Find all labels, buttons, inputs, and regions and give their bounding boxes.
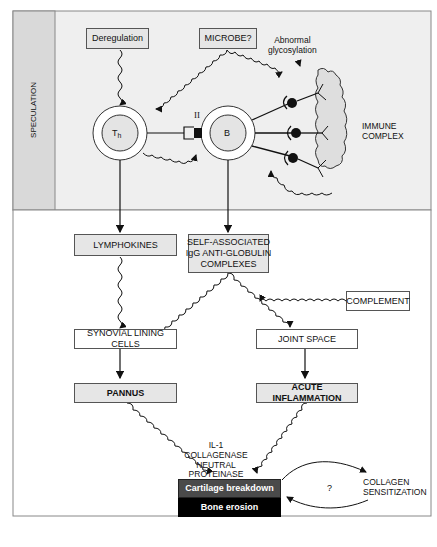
th-cell-label: Th	[112, 128, 121, 140]
cartilage-breakdown-box: Cartilage breakdown	[178, 479, 281, 498]
pannus-box: PANNUS	[74, 383, 177, 403]
th-subscript: h	[118, 132, 122, 139]
deregulation-box: Deregulation	[86, 28, 149, 49]
acute-inflammation-box: ACUTE INFLAMMATION	[256, 383, 358, 403]
bone-erosion-box: Bone erosion	[178, 498, 281, 517]
question-mark: ?	[327, 483, 332, 493]
complement-box: COMPLEMENT	[346, 291, 410, 311]
collagen-sensitization-label: COLLAGEN SENSITIZATION	[363, 478, 427, 498]
mediators-label: IL-1 COLLAGENASE NEUTRAL PROTEINASE	[181, 441, 251, 480]
speculation-label: SPECULATION	[29, 82, 38, 138]
self-associated-box: SELF-ASSOCIATED IgG ANTI-GLOBULIN COMPLE…	[188, 234, 269, 273]
mhc-class-ii-label: II	[194, 110, 200, 120]
lymphokines-box: LYMPHOKINES	[74, 234, 177, 256]
immune-complex-label: IMMUNE COMPLEX	[362, 122, 404, 142]
b-cell-label: B	[224, 128, 230, 138]
microbe-box: MICROBE?	[199, 28, 257, 49]
synovial-lining-cells-box: SYNOVIAL LINING CELLS	[74, 329, 177, 349]
abnormal-glycosylation-label: Abnormal glycosylation	[268, 36, 317, 56]
joint-space-box: JOINT SPACE	[256, 329, 358, 349]
